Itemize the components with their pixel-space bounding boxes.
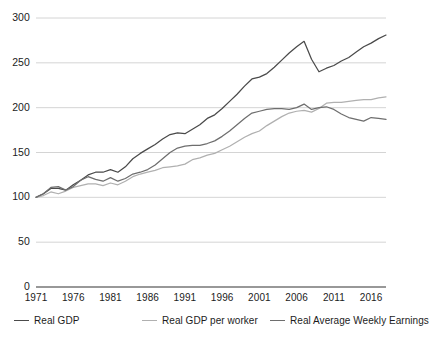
x-tick-label: 2016 (351, 292, 391, 303)
legend-label: Real GDP per worker (162, 315, 258, 326)
x-tick-label: 2006 (277, 292, 317, 303)
x-tick-label: 1981 (90, 292, 130, 303)
series-lines (36, 35, 386, 197)
y-tick-label: 150 (2, 146, 30, 158)
x-tick-label: 2011 (314, 292, 354, 303)
y-tick-label: 200 (2, 101, 30, 113)
legend-line-swatch-icon (270, 320, 285, 321)
legend-item-2[interactable]: Real GDP per worker (142, 312, 258, 328)
gridlines (36, 18, 386, 242)
legend-line-swatch-icon (14, 320, 29, 321)
legend-line-swatch-icon (142, 320, 157, 321)
y-tick-label: 100 (2, 190, 30, 202)
legend-label: Real GDP (34, 315, 79, 326)
x-tick-label: 2001 (239, 292, 279, 303)
y-tick-label: 50 (2, 235, 30, 247)
legend-item-3[interactable]: Real Average Weekly Earnings (270, 312, 429, 328)
series-line-1 (36, 35, 386, 197)
x-tick-label: 1976 (53, 292, 93, 303)
x-tick-label: 1996 (202, 292, 242, 303)
legend-label: Real Average Weekly Earnings (290, 315, 429, 326)
y-tick-label: 0 (2, 280, 30, 292)
x-tick-label: 1971 (16, 292, 56, 303)
chart-legend: Real GDPReal GDP per workerReal Average … (14, 312, 394, 328)
y-tick-label: 250 (2, 56, 30, 68)
x-tick-label: 1986 (128, 292, 168, 303)
y-tick-label: 300 (2, 11, 30, 23)
legend-item-1[interactable]: Real GDP (14, 312, 79, 328)
series-line-2 (36, 97, 386, 197)
x-tick-label: 1991 (165, 292, 205, 303)
